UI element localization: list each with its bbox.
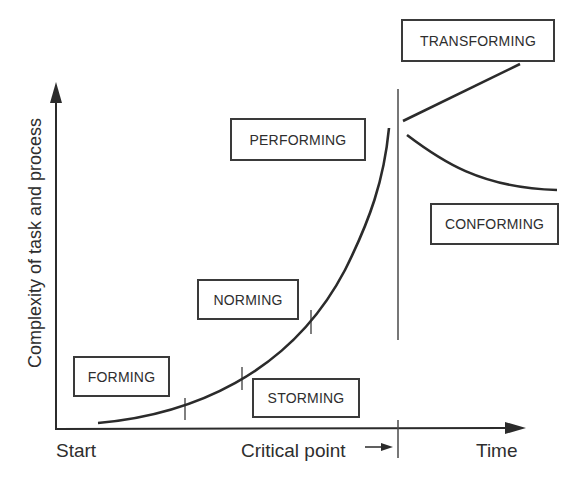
stage-box-transforming: TRANSFORMING bbox=[401, 19, 555, 62]
x-axis bbox=[56, 428, 508, 429]
stage-box-storming: STORMING bbox=[252, 378, 360, 418]
y-axis-arrowhead-icon bbox=[50, 82, 62, 103]
x-axis-arrowhead-icon bbox=[505, 422, 526, 434]
conforming-branch bbox=[407, 135, 557, 190]
y-axis-label: Complexity of task and process bbox=[25, 118, 46, 368]
stage-box-norming: NORMING bbox=[197, 279, 299, 320]
x-axis-label-critical-point: Critical point bbox=[241, 440, 346, 462]
stage-box-conforming: CONFORMING bbox=[430, 203, 559, 245]
x-axis-label-start: Start bbox=[56, 440, 96, 462]
stage-label-performing: PERFORMING bbox=[250, 132, 347, 148]
stage-box-performing: PERFORMING bbox=[230, 118, 366, 161]
stage-label-conforming: CONFORMING bbox=[445, 216, 544, 232]
transforming-branch bbox=[403, 64, 520, 121]
stage-label-transforming: TRANSFORMING bbox=[420, 33, 536, 49]
x-axis-label-time: Time bbox=[476, 440, 518, 462]
stage-box-forming: FORMING bbox=[73, 356, 170, 397]
stage-label-forming: FORMING bbox=[88, 369, 156, 385]
stage-label-norming: NORMING bbox=[213, 292, 282, 308]
stage-label-storming: STORMING bbox=[268, 390, 345, 406]
critical-point-arrowhead-icon bbox=[381, 443, 393, 451]
